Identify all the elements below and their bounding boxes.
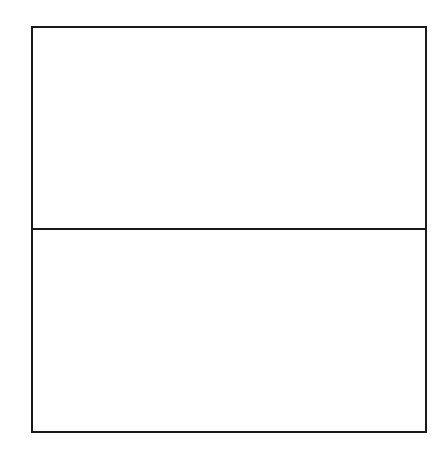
top-section bbox=[33, 28, 425, 230]
bottom-section bbox=[33, 230, 425, 431]
outer-rectangle bbox=[31, 26, 427, 433]
